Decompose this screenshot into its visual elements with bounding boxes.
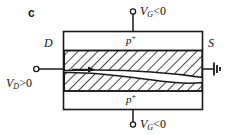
drain-region-label: D (44, 36, 53, 51)
drain-terminal-node[interactable] (34, 66, 39, 71)
bottom-gate-v-relation: <0 (153, 117, 166, 131)
top-gate-region-label: p+ (126, 33, 136, 46)
top-gate-voltage-label: VG<0 (140, 4, 166, 19)
top-p-superscript: + (132, 33, 137, 42)
device-schematic (0, 0, 229, 135)
bottom-gate-region-label: p+ (126, 92, 136, 105)
source-region-label: S (208, 36, 214, 51)
bottom-p-superscript: + (132, 92, 137, 101)
bottom-gate-terminal-node[interactable] (130, 122, 135, 127)
bottom-gate-voltage-label: VG<0 (140, 117, 166, 132)
top-gate-terminal-node[interactable] (130, 9, 135, 14)
jfet-figure: c (0, 0, 229, 135)
drain-v-relation: >0 (19, 76, 32, 90)
top-gate-v-relation: <0 (153, 4, 166, 18)
drain-voltage-label: VD>0 (6, 76, 32, 91)
